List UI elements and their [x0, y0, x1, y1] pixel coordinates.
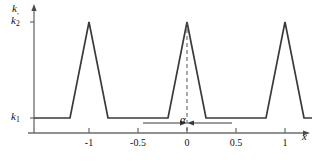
- y-axis: [30, 4, 37, 133]
- x-tick-label-1: 1: [275, 137, 295, 148]
- y-axis-arrowhead: [31, 4, 36, 11]
- x-axis: [28, 128, 310, 136]
- chart-svg: [0, 0, 316, 163]
- chart-figure: k, k2 k1 x α -1 -0.5 0 0.5 1: [0, 0, 316, 163]
- x-tick-label-neg1: -1: [79, 137, 99, 148]
- y-tick-label-k2: k2: [11, 14, 20, 28]
- x-tick-label-0point5: 0.5: [223, 137, 249, 148]
- x-tick-label-zero: 0: [177, 137, 197, 148]
- alpha-label: α: [180, 113, 186, 125]
- x-axis-label: x: [302, 130, 307, 142]
- y-tick-label-k1: k1: [11, 110, 20, 124]
- x-tick-label-neg0point5: -0.5: [123, 137, 153, 148]
- alpha-right-arrowhead: [187, 121, 194, 126]
- curve-k-of-x: [34, 22, 312, 118]
